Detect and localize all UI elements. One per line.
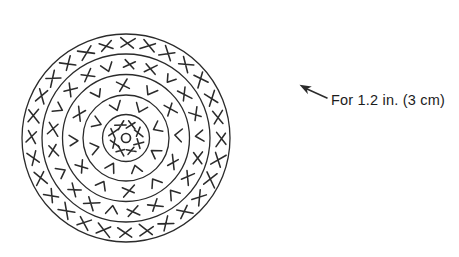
stitch-symbol-v (195, 130, 204, 142)
stitch-symbol-x (80, 68, 94, 81)
stitch-symbol-v (69, 135, 78, 146)
stitch-symbol-x (147, 198, 163, 213)
stitch-symbol-x (126, 147, 136, 155)
stitch-symbol-v (106, 205, 119, 215)
stitch-symbol-v (148, 176, 162, 189)
stitch-symbol-v (55, 165, 68, 179)
stitch-symbol-x (205, 90, 220, 106)
stitch-symbol-x (178, 87, 192, 103)
stitch-symbol-v (133, 102, 147, 114)
stitch-symbol-x (123, 60, 135, 70)
stitch-symbol-x (35, 88, 48, 104)
stitch-symbol-v (143, 85, 157, 98)
stitch-symbol-x (211, 151, 227, 168)
stitch-symbol-x (126, 121, 136, 130)
round-circle-4 (42, 54, 210, 222)
stitch-symbol-x (188, 107, 202, 121)
stitch-symbol-x (115, 120, 127, 130)
stitch-symbol-x (116, 146, 127, 156)
stitch-symbol-x (110, 138, 119, 148)
stitch-symbol-x (73, 106, 87, 121)
stitch-symbol-v (95, 179, 109, 191)
stitch-symbol-x (192, 71, 208, 88)
stitch-symbol-v (166, 187, 181, 201)
center-ring-icon (122, 134, 131, 143)
stitch-symbol-x (44, 70, 62, 87)
stitch-symbol-x (203, 171, 217, 188)
stitch-symbol-x (58, 202, 75, 219)
stitch-symbol-v (174, 129, 182, 142)
round-circle-2 (83, 95, 169, 181)
stitch-symbol-x (126, 206, 140, 218)
stitch-symbol-x (63, 82, 77, 97)
stitch-symbol-x (27, 151, 40, 166)
stitch-symbol-x (28, 109, 39, 123)
stitch-symbol-x (67, 183, 82, 197)
stitch-symbol-x (44, 188, 59, 203)
round-circle-1 (103, 115, 150, 162)
stitch-symbol-v (101, 62, 115, 73)
arrow-head-icon (300, 85, 312, 94)
stitch-symbol-x (191, 189, 207, 205)
stitch-symbol-x (84, 195, 100, 211)
stitch-symbol-x (26, 130, 38, 143)
stitch-symbol-x (78, 45, 96, 60)
chart-rounds (22, 34, 230, 242)
stitch-symbol-x (144, 63, 157, 74)
stitch-symbol-x (118, 227, 132, 238)
stitch-symbol-x (116, 79, 129, 92)
stitch-symbol-x (77, 216, 92, 230)
stitch-symbol-x (95, 223, 112, 237)
stitch-symbol-x (33, 170, 47, 186)
stitch-symbol-v (164, 73, 177, 85)
stitch-symbol-x (163, 102, 177, 117)
stitch-symbol-v (105, 161, 118, 174)
annotation-label: For 1.2 in. (3 cm) (331, 92, 445, 108)
stitch-symbol-x (213, 110, 224, 124)
stitch-symbol-x (134, 139, 144, 149)
stitch-symbol-x (109, 127, 119, 138)
stitch-symbol-v (149, 146, 162, 160)
stitch-symbol-x (119, 37, 135, 49)
stitch-symbol-v (151, 121, 163, 135)
stitch-symbol-x (139, 224, 153, 236)
stitch-symbol-v (109, 100, 123, 112)
stitch-symbol-x (177, 204, 193, 219)
stitch-symbol-x (158, 216, 174, 232)
stitch-symbol-x (140, 39, 157, 52)
crochet-chart: For 1.2 in. (3 cm) (0, 0, 459, 257)
stitch-symbol-x (121, 185, 136, 197)
stitch-symbol-x (159, 45, 176, 61)
stitch-symbol-v (91, 116, 103, 129)
arrow-line (307, 89, 328, 98)
annotation-arrow (300, 85, 328, 98)
stitch-symbol-x (59, 55, 76, 72)
stitch-symbol-x (181, 169, 196, 185)
stitch-symbol-x (177, 56, 194, 72)
stitch-symbol-v (89, 141, 100, 155)
diagram-canvas: For 1.2 in. (3 cm) (0, 0, 459, 257)
stitch-symbol-v (52, 102, 65, 115)
round-circle-3 (63, 75, 190, 202)
stitch-symbol-x (216, 132, 226, 146)
stitch-symbol-x (166, 154, 180, 169)
stitch-symbol-v (130, 164, 143, 174)
stitch-symbol-x (99, 40, 113, 51)
stitch-symbol-x (47, 122, 58, 136)
stitch-symbol-x (193, 151, 203, 164)
stitch-symbol-v (90, 88, 103, 100)
stitch-symbol-x (47, 144, 58, 157)
stitch-symbol-x (75, 159, 89, 173)
